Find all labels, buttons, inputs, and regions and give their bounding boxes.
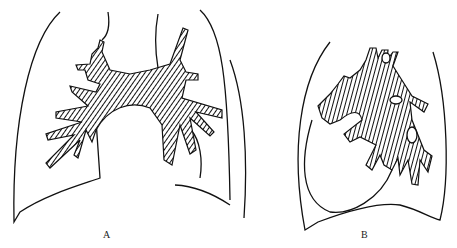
panel-label-a: A [103, 229, 110, 240]
bronchial-tree-a [46, 28, 222, 168]
divider-curve [230, 60, 246, 218]
bronchial-tree-b [318, 48, 432, 185]
panel-b [230, 42, 446, 230]
panel-a [14, 10, 230, 222]
trachea-left [102, 12, 109, 40]
diagram-canvas [0, 0, 457, 248]
trachea-right [156, 14, 158, 68]
panel-label-b: B [361, 229, 368, 240]
